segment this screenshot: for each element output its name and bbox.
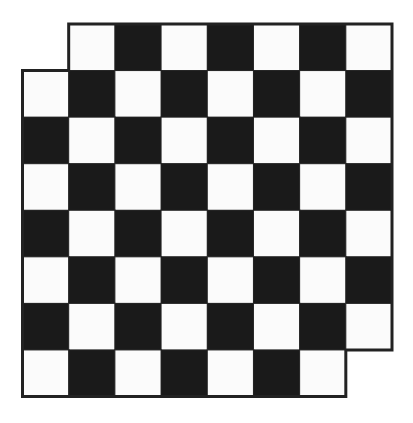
dark-square: [253, 71, 300, 118]
light-square: [346, 117, 393, 164]
dark-square: [207, 303, 254, 350]
dark-square: [23, 117, 70, 164]
light-square: [115, 71, 162, 118]
light-square: [69, 303, 116, 350]
light-square: [207, 350, 254, 397]
board-cells: [23, 24, 393, 397]
light-square: [23, 164, 70, 211]
light-square: [346, 210, 393, 257]
light-square: [207, 257, 254, 304]
dark-square: [253, 350, 300, 397]
dark-square: [253, 164, 300, 211]
light-square: [253, 24, 300, 71]
dark-square: [300, 24, 347, 71]
light-square: [300, 350, 347, 397]
light-square: [161, 24, 208, 71]
dark-square: [69, 71, 116, 118]
light-square: [253, 303, 300, 350]
dark-square: [253, 257, 300, 304]
light-square: [346, 24, 393, 71]
light-square: [23, 71, 70, 118]
light-square: [69, 117, 116, 164]
dark-square: [207, 210, 254, 257]
light-square: [161, 210, 208, 257]
light-square: [300, 71, 347, 118]
dark-square: [207, 117, 254, 164]
light-square: [346, 303, 393, 350]
light-square: [161, 303, 208, 350]
light-square: [69, 24, 116, 71]
light-square: [115, 350, 162, 397]
light-square: [23, 350, 70, 397]
dark-square: [69, 164, 116, 211]
dark-square: [115, 24, 162, 71]
dark-square: [161, 257, 208, 304]
dark-square: [300, 303, 347, 350]
light-square: [300, 257, 347, 304]
dark-square: [346, 71, 393, 118]
dark-square: [300, 210, 347, 257]
dark-square: [69, 350, 116, 397]
dark-square: [23, 303, 70, 350]
dark-square: [69, 257, 116, 304]
light-square: [115, 164, 162, 211]
dark-square: [115, 303, 162, 350]
light-square: [253, 117, 300, 164]
dark-square: [346, 164, 393, 211]
dark-square: [161, 71, 208, 118]
dark-square: [300, 117, 347, 164]
mutilated-checkerboard: [0, 0, 413, 423]
light-square: [115, 257, 162, 304]
light-square: [69, 210, 116, 257]
dark-square: [115, 117, 162, 164]
light-square: [161, 117, 208, 164]
light-square: [207, 164, 254, 211]
dark-square: [161, 350, 208, 397]
light-square: [253, 210, 300, 257]
light-square: [300, 164, 347, 211]
light-square: [23, 257, 70, 304]
dark-square: [161, 164, 208, 211]
dark-square: [207, 24, 254, 71]
dark-square: [346, 257, 393, 304]
light-square: [207, 71, 254, 118]
dark-square: [115, 210, 162, 257]
dark-square: [23, 210, 70, 257]
